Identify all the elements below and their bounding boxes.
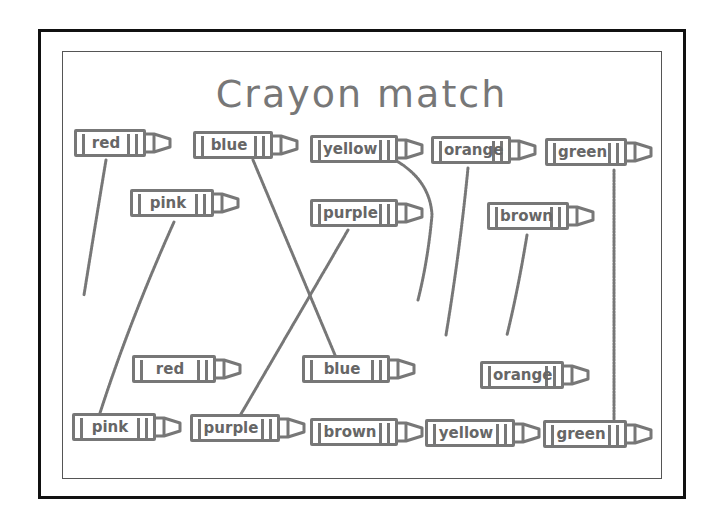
crayon-orange[interactable]: orange — [431, 136, 539, 168]
crayon-band — [318, 423, 321, 443]
crayon-band — [205, 360, 208, 380]
crayon-body: yellow — [310, 135, 398, 163]
crayon-label: yellow — [438, 422, 494, 444]
crayon-body: brown — [310, 418, 398, 446]
crayon-tip-icon — [271, 132, 301, 158]
crayon-band — [371, 360, 374, 380]
line-red[interactable] — [84, 160, 106, 295]
crayon-band — [433, 424, 436, 444]
crayon-red[interactable]: red — [132, 355, 244, 387]
crayon-band — [439, 141, 442, 161]
crayon-band — [318, 140, 321, 160]
crayon-band — [127, 134, 130, 154]
crayon-body: yellow — [425, 419, 515, 447]
crayon-body: green — [545, 138, 627, 166]
crayon-band — [82, 134, 85, 154]
crayon-band — [608, 143, 611, 163]
crayon-green[interactable]: green — [543, 420, 655, 452]
crayon-band — [137, 418, 140, 438]
crayon-tip-icon — [562, 362, 592, 388]
crayon-band — [379, 140, 382, 160]
crayon-band — [254, 136, 257, 156]
crayon-label: green — [558, 141, 606, 163]
crayon-label: red — [145, 358, 195, 380]
crayon-brown[interactable]: brown — [310, 418, 426, 450]
crayon-band — [269, 419, 272, 439]
crayon-tip-icon — [513, 420, 543, 446]
crayon-body: pink — [72, 413, 156, 441]
crayon-tip-icon — [509, 137, 539, 163]
crayon-body: orange — [431, 136, 511, 164]
crayon-body: pink — [130, 189, 214, 217]
crayon-tip-icon — [278, 415, 308, 441]
crayon-band — [553, 143, 556, 163]
crayon-band — [553, 366, 556, 386]
crayon-label: purple — [203, 417, 259, 439]
crayon-blue[interactable]: blue — [193, 131, 301, 163]
crayon-band — [495, 207, 498, 227]
crayon-tip-icon — [396, 136, 426, 162]
crayon-label: purple — [323, 202, 377, 224]
crayon-band — [310, 360, 313, 380]
line-orange[interactable] — [446, 168, 468, 335]
crayon-green[interactable]: green — [545, 138, 655, 170]
crayon-band — [551, 425, 554, 445]
crayon-pink[interactable]: pink — [72, 413, 184, 445]
crayon-band — [145, 418, 148, 438]
crayon-band — [504, 424, 507, 444]
crayon-band — [201, 136, 204, 156]
crayon-brown[interactable]: brown — [487, 202, 597, 234]
crayon-body: brown — [487, 202, 569, 230]
crayon-body: purple — [190, 414, 280, 442]
crayon-label: yellow — [323, 138, 377, 160]
crayon-body: red — [74, 129, 146, 157]
crayon-band — [379, 423, 382, 443]
crayon-label: pink — [85, 416, 135, 438]
crayon-band — [616, 425, 619, 445]
crayon-body: blue — [302, 355, 390, 383]
crayon-tip-icon — [396, 419, 426, 445]
line-brown[interactable] — [507, 235, 527, 335]
crayon-band — [318, 204, 321, 224]
crayon-tip-icon — [388, 356, 418, 382]
crayon-tip-icon — [144, 130, 174, 156]
crayon-body: blue — [193, 131, 273, 159]
crayon-band — [616, 143, 619, 163]
crayon-purple[interactable]: purple — [190, 414, 308, 446]
crayon-body: red — [132, 355, 216, 383]
crayon-label: brown — [500, 205, 548, 227]
crayon-band — [379, 360, 382, 380]
crayon-band — [138, 194, 141, 214]
crayon-red[interactable]: red — [74, 129, 174, 161]
crayon-label: orange — [493, 364, 543, 386]
crayon-label: red — [87, 132, 125, 154]
crayon-purple[interactable]: purple — [310, 199, 426, 231]
crayon-blue[interactable]: blue — [302, 355, 418, 387]
crayon-yellow[interactable]: yellow — [310, 135, 426, 167]
crayon-label: orange — [444, 139, 490, 161]
crayon-band — [558, 207, 561, 227]
crayon-yellow[interactable]: yellow — [425, 419, 543, 451]
crayon-label: green — [556, 423, 606, 445]
crayon-label: blue — [315, 358, 369, 380]
crayon-band — [261, 419, 264, 439]
crayon-tip-icon — [212, 190, 242, 216]
crayon-band — [80, 418, 83, 438]
crayon-pink[interactable]: pink — [130, 189, 242, 221]
crayon-tip-icon — [567, 203, 597, 229]
crayon-tip-icon — [396, 200, 426, 226]
crayon-band — [262, 136, 265, 156]
crayon-band — [197, 360, 200, 380]
crayon-band — [379, 204, 382, 224]
crayon-label: blue — [206, 134, 252, 156]
crayon-tip-icon — [625, 139, 655, 165]
crayon-label: pink — [143, 192, 193, 214]
crayon-band — [387, 204, 390, 224]
crayon-label: brown — [323, 421, 377, 443]
crayon-tip-icon — [625, 421, 655, 447]
crayon-body: purple — [310, 199, 398, 227]
crayon-band — [195, 194, 198, 214]
crayon-band — [135, 134, 138, 154]
crayon-orange[interactable]: orange — [480, 361, 592, 393]
crayon-band — [387, 140, 390, 160]
